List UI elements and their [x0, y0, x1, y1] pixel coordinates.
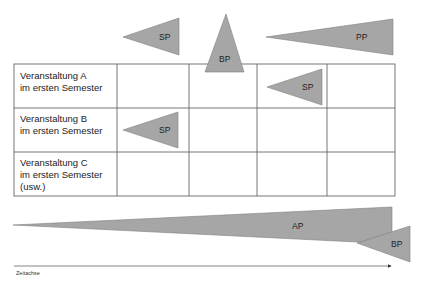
row-a-label: Veranstaltung A im ersten Semester: [20, 70, 102, 94]
row-a-label-line1: Veranstaltung A: [20, 70, 102, 82]
bp-bottom-label: BP: [391, 239, 403, 249]
row-a-label-line2: im ersten Semester: [20, 82, 102, 94]
row-c-label: Veranstaltung C im ersten Semester (usw.…: [20, 157, 102, 193]
bp-top-triangle: BP: [205, 14, 244, 72]
ap-wedge: AP: [13, 207, 392, 242]
row-b-label: Veranstaltung B im ersten Semester: [20, 113, 102, 137]
row-c-label-line1: Veranstaltung C: [20, 157, 102, 169]
row-c-label-line3: (usw.): [20, 181, 102, 193]
pp-top-label: PP: [356, 32, 368, 42]
ap-label: AP: [292, 221, 304, 231]
sp-top-triangle: SP: [123, 18, 179, 55]
time-axis-label: Zeitachse: [16, 270, 40, 276]
row-b-sp-label: SP: [159, 125, 171, 135]
sp-top-label: SP: [159, 32, 171, 42]
bp-top-label: BP: [219, 54, 231, 64]
row-c-label-line2: im ersten Semester: [20, 169, 102, 181]
row-b-label-line1: Veranstaltung B: [20, 113, 102, 125]
pp-top-triangle: PP: [266, 19, 393, 55]
diagram-canvas: SP BP PP SP SP AP BP: [0, 0, 423, 289]
row-a-sp-label: SP: [302, 82, 314, 92]
row-b-label-line2: im ersten Semester: [20, 125, 102, 137]
